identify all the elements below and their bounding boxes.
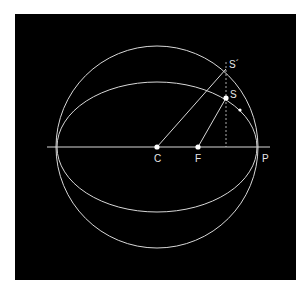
label-focus: F xyxy=(195,153,201,164)
label-center: C xyxy=(154,153,161,164)
label-perihelion: P xyxy=(262,153,269,164)
label-auxiliary-point: S´ xyxy=(229,59,239,70)
point-center xyxy=(154,144,159,149)
point-focus xyxy=(195,144,200,149)
line-focus-to-planet xyxy=(198,98,226,147)
motion-marker xyxy=(238,108,241,111)
label-planet: S xyxy=(230,89,237,100)
point-planet xyxy=(223,95,228,100)
kepler-diagram: C F P S S´ xyxy=(0,0,308,296)
line-center-to-auxiliary xyxy=(157,69,226,147)
